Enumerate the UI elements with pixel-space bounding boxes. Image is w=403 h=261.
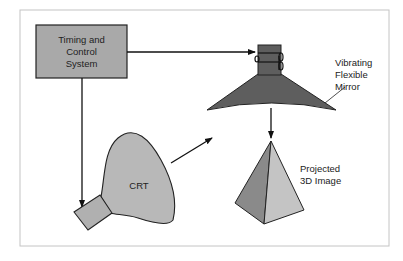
mirror-label-line1: Vibrating	[335, 57, 372, 68]
mirror-label-line2: Flexible	[335, 69, 368, 80]
timing-label-line1: Timing and	[58, 34, 105, 45]
image-label-line2: 3D Image	[300, 175, 341, 186]
timing-label-line2: Control	[66, 46, 97, 57]
diagram-canvas: Timing and Control System Vibrating Flex…	[0, 0, 403, 261]
mirror-driver	[258, 45, 281, 75]
timing-control-node: Timing and Control System	[36, 25, 127, 78]
timing-label-line3: System	[66, 58, 98, 69]
crt-label: CRT	[129, 180, 149, 191]
mirror-label-line3: Mirror	[335, 81, 360, 92]
image-label-line1: Projected	[300, 163, 340, 174]
